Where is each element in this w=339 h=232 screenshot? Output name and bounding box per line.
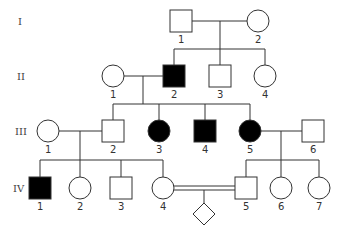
male-unaffected-iv-5 <box>235 177 257 199</box>
male-unaffected-i-1 <box>170 10 192 32</box>
male-affected-iii-4 <box>194 120 216 142</box>
female-unaffected-iv-4 <box>152 177 174 199</box>
female-unaffected-iv-2 <box>69 177 91 199</box>
female-unaffected-iii-1 <box>37 120 59 142</box>
label-i-2: 2 <box>255 34 261 45</box>
label-iv-4: 4 <box>160 201 166 212</box>
female-unaffected-ii-1 <box>102 65 124 87</box>
female-affected-iii-5 <box>239 120 261 142</box>
label-ii-2: 2 <box>171 89 177 100</box>
label-iii-4: 4 <box>202 144 208 155</box>
generation-labels: I II III IV <box>13 16 27 194</box>
male-unaffected-iii-2 <box>102 120 124 142</box>
male-affected-ii-2 <box>163 65 185 87</box>
label-ii-4: 4 <box>262 89 268 100</box>
label-iv-7: 7 <box>316 201 322 212</box>
female-unaffected-iv-7 <box>308 177 330 199</box>
label-iii-6: 6 <box>310 144 316 155</box>
label-ii-1: 1 <box>110 89 116 100</box>
female-unaffected-i-2 <box>247 10 269 32</box>
male-unaffected-ii-3 <box>209 65 231 87</box>
label-iii-1: 1 <box>45 144 51 155</box>
generation-label-iv: IV <box>13 183 25 194</box>
generation-label-ii: II <box>17 71 25 82</box>
male-unaffected-iii-6 <box>302 120 324 142</box>
generation-label-iii: III <box>15 126 27 137</box>
label-i-1: 1 <box>178 34 184 45</box>
label-iv-1: 1 <box>37 201 43 212</box>
generation-label-i: I <box>18 16 22 27</box>
label-iii-2: 2 <box>110 144 116 155</box>
label-iv-5: 5 <box>243 201 249 212</box>
female-affected-iii-3 <box>148 120 170 142</box>
unknown-sex-offspring-diamond <box>193 203 215 225</box>
label-iv-6: 6 <box>278 201 284 212</box>
label-iv-2: 2 <box>77 201 83 212</box>
label-iii-5: 5 <box>247 144 253 155</box>
female-unaffected-ii-4 <box>254 65 276 87</box>
female-unaffected-iv-6 <box>270 177 292 199</box>
male-affected-iv-1 <box>29 177 51 199</box>
label-iv-3: 3 <box>118 201 124 212</box>
label-iii-3: 3 <box>156 144 162 155</box>
label-ii-3: 3 <box>217 89 223 100</box>
male-unaffected-iv-3 <box>110 177 132 199</box>
relationship-lines <box>40 21 319 203</box>
pedigree-chart: I II III IV <box>0 0 339 232</box>
